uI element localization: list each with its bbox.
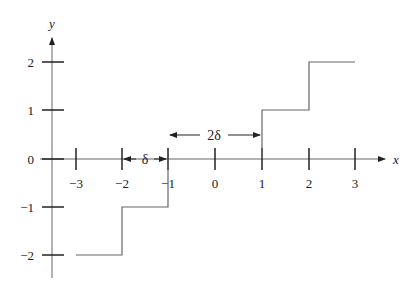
svg-text:1: 1 xyxy=(259,176,266,191)
svg-text:−2: −2 xyxy=(115,176,129,191)
diagram-canvas: y x 2 1 0 −1 −2 −3 −2 −1 0 1 2 3 xyxy=(0,0,417,289)
svg-text:0: 0 xyxy=(212,176,219,191)
delta-label: δ xyxy=(142,152,149,167)
svg-text:1: 1 xyxy=(28,103,35,118)
svg-text:2: 2 xyxy=(306,176,313,191)
svg-text:−1: −1 xyxy=(20,200,34,215)
step-upper xyxy=(262,62,355,159)
svg-text:3: 3 xyxy=(352,176,359,191)
x-tick-labels: −3 −2 −1 0 1 2 3 xyxy=(69,176,358,191)
y-ticks xyxy=(42,62,64,255)
x-axis-label: x xyxy=(392,152,399,167)
svg-text:2: 2 xyxy=(28,55,35,70)
two-delta-label: 2δ xyxy=(207,128,221,143)
svg-text:0: 0 xyxy=(28,152,35,167)
step-lower xyxy=(76,159,168,255)
y-tick-labels: 2 1 0 −1 −2 xyxy=(20,55,34,263)
y-axis-label: y xyxy=(47,16,55,31)
step-function-diagram: y x 2 1 0 −1 −2 −3 −2 −1 0 1 2 3 xyxy=(0,0,417,289)
svg-text:−2: −2 xyxy=(20,248,34,263)
svg-text:−3: −3 xyxy=(69,176,83,191)
